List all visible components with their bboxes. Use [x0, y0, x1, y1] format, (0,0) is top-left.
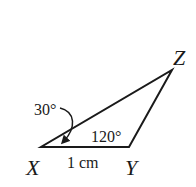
side-length-xy: 1 cm [67, 154, 99, 171]
triangle-diagram: X Y Z 30° 120° 1 cm [0, 0, 196, 187]
vertex-label-y: Y [125, 155, 140, 180]
angle-x-pointer-arrow [60, 108, 73, 141]
angle-label-y: 120° [91, 128, 121, 145]
vertex-label-z: Z [173, 45, 186, 70]
vertex-label-x: X [25, 155, 41, 180]
angle-label-x: 30° [34, 101, 56, 118]
